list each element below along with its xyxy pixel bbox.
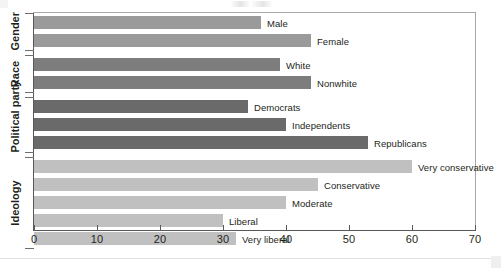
- bar-white: [34, 58, 280, 71]
- group-rule-ideology-end: [25, 248, 34, 249]
- x-tick-label-50: 50: [343, 233, 355, 245]
- bar-independents: [34, 118, 286, 131]
- bar-label-conservative: Conservative: [324, 180, 380, 191]
- x-tick-label-10: 10: [91, 233, 103, 245]
- group-rule-political-party-start: [25, 97, 34, 98]
- group-rule-gender-start: [25, 13, 34, 14]
- x-tick-10: [97, 225, 98, 231]
- x-tick-70: [475, 225, 476, 231]
- bar-republicans: [34, 136, 368, 149]
- bar-label-female: Female: [317, 36, 349, 47]
- x-tick-label-40: 40: [280, 233, 292, 245]
- x-tick-label-70: 70: [469, 233, 481, 245]
- group-label-ideology: Ideology: [7, 157, 21, 248]
- group-rule-race-start: [25, 55, 34, 56]
- bar-female: [34, 34, 311, 47]
- x-axis-line: [33, 230, 476, 231]
- bar-chart: GenderRacePolitical partyIdeology MaleFe…: [0, 0, 501, 268]
- x-tick-50: [349, 225, 350, 231]
- bar-label-male: Male: [267, 18, 288, 29]
- bar-very-conservative: [34, 160, 412, 173]
- page-scan-artifact-top: [230, 1, 290, 7]
- x-tick-60: [412, 225, 413, 231]
- x-tick-label-30: 30: [217, 233, 229, 245]
- bar-label-white: White: [286, 60, 311, 71]
- bar-label-nonwhite: Nonwhite: [317, 78, 357, 89]
- bar-label-moderate: Moderate: [292, 198, 333, 209]
- x-tick-label-20: 20: [154, 233, 166, 245]
- page-corner-artifact-bottom-right: [491, 256, 501, 268]
- plot-border-right: [475, 12, 476, 231]
- bar-democrats: [34, 100, 248, 113]
- bar-very-liberal: [34, 232, 236, 245]
- bar-nonwhite: [34, 76, 311, 89]
- x-tick-30: [223, 225, 224, 231]
- x-tick-40: [286, 225, 287, 231]
- group-rule-gender-end: [25, 50, 34, 51]
- x-tick-label-0: 0: [31, 233, 37, 245]
- page-corner-artifact-top-left: [0, 0, 8, 8]
- bar-moderate: [34, 196, 286, 209]
- x-tick-20: [160, 225, 161, 231]
- group-rule-ideology-start: [25, 157, 34, 158]
- x-tick-0: [34, 225, 35, 231]
- group-rule-political-party-end: [25, 152, 34, 153]
- bar-label-republicans: Republicans: [374, 138, 427, 149]
- bar-label-very-conservative: Very conservative: [418, 162, 494, 173]
- group-rule-race-end: [25, 92, 34, 93]
- bar-label-liberal: Liberal: [229, 216, 258, 227]
- bar-liberal: [34, 214, 223, 227]
- group-label-political-party: Political party: [7, 97, 21, 152]
- page-edge-line: [0, 258, 501, 259]
- bar-male: [34, 16, 261, 29]
- bar-label-independents: Independents: [292, 120, 350, 131]
- bar-conservative: [34, 178, 318, 191]
- group-label-gender: Gender: [7, 13, 21, 50]
- plot-border-top: [33, 12, 476, 13]
- x-tick-label-60: 60: [406, 233, 418, 245]
- bar-label-democrats: Democrats: [254, 102, 300, 113]
